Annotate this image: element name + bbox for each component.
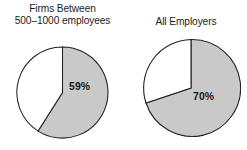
pie-all-employers bbox=[141, 38, 241, 138]
chart-title-firms-500-1000: Firms Between 500–1000 employees bbox=[0, 3, 125, 27]
pie-data-label-70: 70% bbox=[193, 91, 214, 102]
chart-panel-firms-500-1000: Firms Between 500–1000 employees 59% bbox=[0, 0, 125, 150]
chart-title-all-employers: All Employers bbox=[125, 16, 247, 28]
chart-title-line-1: Firms Between bbox=[0, 3, 125, 15]
chart-title-line-1: All Employers bbox=[125, 16, 247, 28]
pie-chart-figure: Firms Between 500–1000 employees 59% All… bbox=[0, 0, 247, 150]
chart-panel-all-employers: All Employers 70% bbox=[125, 0, 247, 150]
chart-title-line-2: 500–1000 employees bbox=[0, 15, 125, 27]
pie-data-label-59: 59% bbox=[69, 81, 90, 92]
pie-firms-500-1000 bbox=[15, 45, 110, 140]
